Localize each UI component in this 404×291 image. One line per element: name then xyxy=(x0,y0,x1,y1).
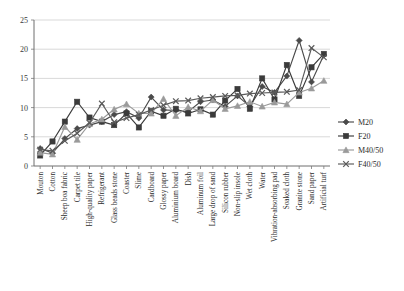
data-point xyxy=(260,76,265,81)
y-tick-label: 10 xyxy=(20,104,28,113)
svg-text:Dish: Dish xyxy=(185,172,193,186)
x-tick-label: Coaster xyxy=(123,171,131,194)
svg-text:Aluminium board: Aluminium board xyxy=(172,172,180,224)
x-tick-label: Wet cloth xyxy=(246,172,254,200)
svg-text:Soaked cloth: Soaked cloth xyxy=(283,172,291,210)
legend-label: M40/50 xyxy=(358,146,383,155)
x-tick-label: Carpet tile xyxy=(74,172,82,202)
svg-text:Aluminum foil: Aluminum foil xyxy=(197,172,205,215)
legend-item-f40-50[interactable]: F40/50 xyxy=(338,160,381,169)
svg-text:Slime: Slime xyxy=(135,172,143,189)
svg-text:Silicon rubber: Silicon rubber xyxy=(222,171,230,213)
svg-text:Sheep boa fabric: Sheep boa fabric xyxy=(61,172,69,220)
svg-text:Mouton: Mouton xyxy=(37,172,45,195)
data-point xyxy=(223,98,228,103)
data-point xyxy=(75,99,80,104)
svg-text:Granite stone: Granite stone xyxy=(296,172,304,211)
svg-text:Vibration-absorbing pad: Vibration-absorbing pad xyxy=(271,172,279,242)
svg-text:Refrigerant: Refrigerant xyxy=(98,172,106,205)
y-tick-label: 5 xyxy=(24,133,28,142)
x-tick-label: Artificial turf xyxy=(320,171,328,210)
x-tick-label: Large drop of sand xyxy=(209,172,217,227)
svg-text:Sand paper: Sand paper xyxy=(308,171,316,204)
y-tick-label: 25 xyxy=(20,16,28,25)
chart-container: 0510152025MoutonCottonSheep boa fabricCa… xyxy=(0,0,404,291)
legend-item-m20[interactable]: M20 xyxy=(338,118,373,127)
legend-label: M20 xyxy=(358,118,373,127)
y-tick-label: 20 xyxy=(20,45,28,54)
legend-item-m40-50[interactable]: M40/50 xyxy=(338,146,383,155)
x-tick-label: Silicon rubber xyxy=(222,171,230,213)
legend-label: F20 xyxy=(358,132,370,141)
x-tick-label: Mouton xyxy=(37,172,45,195)
legend-label: F40/50 xyxy=(358,160,381,169)
x-tick-label: Refrigerant xyxy=(98,172,106,205)
legend-item-f20[interactable]: F20 xyxy=(338,132,370,141)
x-tick-label: Water xyxy=(259,171,267,189)
svg-text:Carpet tile: Carpet tile xyxy=(74,172,82,202)
svg-text:Cardboard: Cardboard xyxy=(148,172,156,203)
x-tick-label: Glossy paper xyxy=(160,171,168,209)
data-point xyxy=(247,106,252,111)
data-point xyxy=(136,125,141,130)
chart-svg: 0510152025MoutonCottonSheep boa fabricCa… xyxy=(0,0,404,291)
x-tick-label: Cotton xyxy=(49,172,57,192)
data-point xyxy=(235,86,240,91)
x-tick-label: Granite stone xyxy=(296,172,304,211)
x-tick-label: Slime xyxy=(135,172,143,189)
data-point xyxy=(161,113,166,118)
x-tick-label: Aluminum foil xyxy=(197,172,205,215)
svg-text:Water: Water xyxy=(259,171,267,189)
line-chart: 0510152025MoutonCottonSheep boa fabricCa… xyxy=(0,0,404,291)
x-tick-label: High-quality paper xyxy=(86,171,94,226)
x-tick-label: Dish xyxy=(185,172,193,186)
data-point xyxy=(50,139,55,144)
data-point xyxy=(173,106,178,111)
svg-text:Cotton: Cotton xyxy=(49,172,57,192)
svg-text:Glossy paper: Glossy paper xyxy=(160,171,168,209)
y-tick-label: 15 xyxy=(20,74,28,83)
data-point xyxy=(343,119,349,125)
svg-text:Large drop of sand: Large drop of sand xyxy=(209,172,217,227)
svg-text:Coaster: Coaster xyxy=(123,171,131,194)
data-point xyxy=(210,112,215,117)
svg-text:High-quality paper: High-quality paper xyxy=(86,171,94,226)
legend: M20F20M40/50F40/50 xyxy=(338,118,383,169)
data-point xyxy=(343,133,348,138)
x-tick-label: Sheep boa fabric xyxy=(61,172,69,220)
x-tick-label: Aluminium board xyxy=(172,172,180,224)
x-tick-label: Glass beads stone xyxy=(111,172,119,223)
x-tick-label: Cardboard xyxy=(148,172,156,203)
data-point xyxy=(186,111,191,116)
x-tick-label: Non-slip insole xyxy=(234,172,242,216)
svg-text:Wet cloth: Wet cloth xyxy=(246,172,254,200)
x-tick-label: Vibration-absorbing pad xyxy=(271,172,279,242)
data-point xyxy=(124,111,129,116)
svg-text:Glass beads stone: Glass beads stone xyxy=(111,172,119,223)
svg-text:Non-slip insole: Non-slip insole xyxy=(234,172,242,216)
x-tick-label: Soaked cloth xyxy=(283,172,291,210)
svg-text:Artificial turf: Artificial turf xyxy=(320,171,328,210)
data-point xyxy=(284,62,289,67)
y-tick-label: 0 xyxy=(24,162,28,171)
x-tick-label: Sand paper xyxy=(308,171,316,204)
data-point xyxy=(309,65,314,70)
